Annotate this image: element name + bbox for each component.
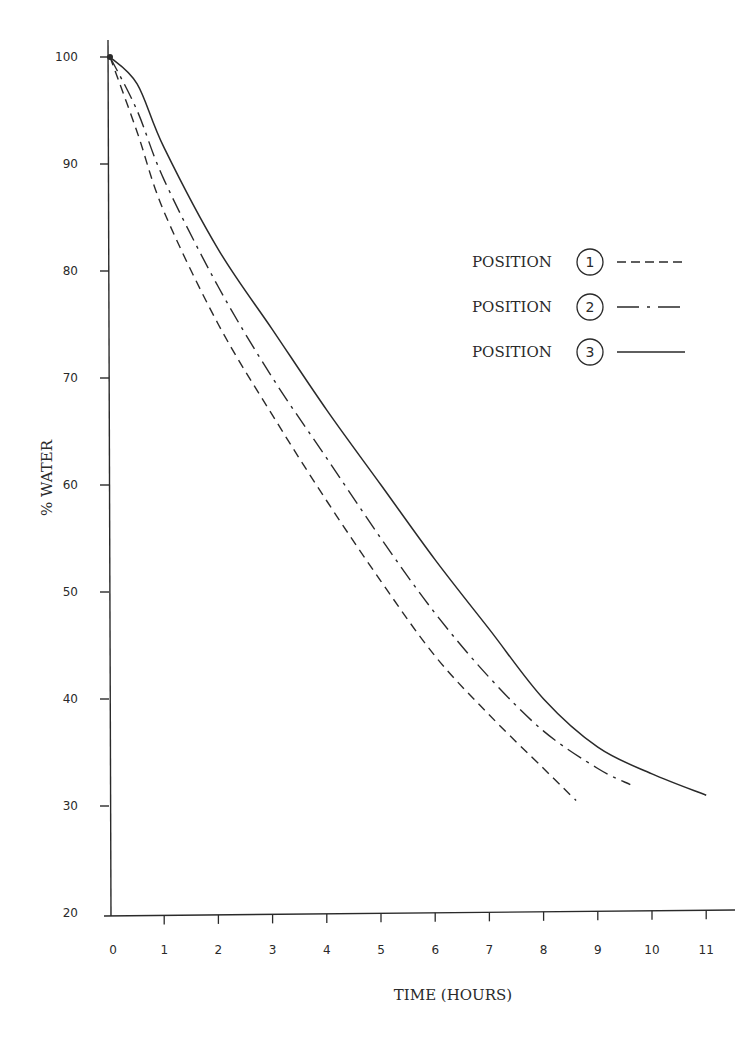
legend-item-position-1: POSITION1 xyxy=(472,249,685,275)
legend-item-position-2: POSITION2 xyxy=(472,294,685,320)
y-tick-label: 60 xyxy=(63,478,78,492)
x-tick-label: 10 xyxy=(644,943,659,957)
y-tick-label: 30 xyxy=(63,799,78,813)
legend-label: POSITION xyxy=(472,343,552,361)
y-axis-line xyxy=(108,40,111,916)
legend-number: 1 xyxy=(586,254,595,270)
x-axis-ticks: 01234567891011 xyxy=(109,910,714,957)
y-tick-label: 70 xyxy=(63,371,78,385)
x-tick-label: 4 xyxy=(323,943,331,957)
x-tick-label: 7 xyxy=(486,943,494,957)
x-tick-label: 9 xyxy=(594,943,602,957)
x-axis-title: TIME (HOURS) xyxy=(394,986,512,1004)
x-tick-label: 1 xyxy=(160,943,168,957)
x-tick-label: 11 xyxy=(699,943,714,957)
series-line-position-2 xyxy=(110,57,630,785)
x-tick-label: 2 xyxy=(215,943,223,957)
series-line-position-1 xyxy=(110,57,576,801)
data-series xyxy=(107,54,706,801)
start-point-marker xyxy=(107,54,113,60)
series-line-position-3 xyxy=(110,57,706,795)
legend-number: 3 xyxy=(586,344,595,360)
x-axis-line xyxy=(104,910,735,916)
y-tick-label: 80 xyxy=(63,264,78,278)
legend-label: POSITION xyxy=(472,298,552,316)
legend-number: 2 xyxy=(586,299,595,315)
x-tick-label: 5 xyxy=(377,943,385,957)
y-tick-label: 90 xyxy=(63,157,78,171)
y-tick-label: 50 xyxy=(63,585,78,599)
x-tick-label: 6 xyxy=(431,943,439,957)
legend: POSITION1POSITION2POSITION3 xyxy=(472,249,685,365)
y-axis-title: % WATER xyxy=(38,439,56,516)
y-tick-label: 40 xyxy=(63,692,78,706)
legend-item-position-3: POSITION3 xyxy=(472,339,685,365)
y-tick-label: 20 xyxy=(63,906,78,920)
water-loss-chart: 2030405060708090100 01234567891011 % WAT… xyxy=(0,0,755,1049)
legend-label: POSITION xyxy=(472,253,552,271)
x-tick-label: 8 xyxy=(540,943,548,957)
x-tick-label: 0 xyxy=(109,943,117,957)
y-axis-ticks: 2030405060708090100 xyxy=(55,50,109,920)
axes xyxy=(104,40,735,916)
x-tick-label: 3 xyxy=(269,943,277,957)
y-tick-label: 100 xyxy=(55,50,78,64)
